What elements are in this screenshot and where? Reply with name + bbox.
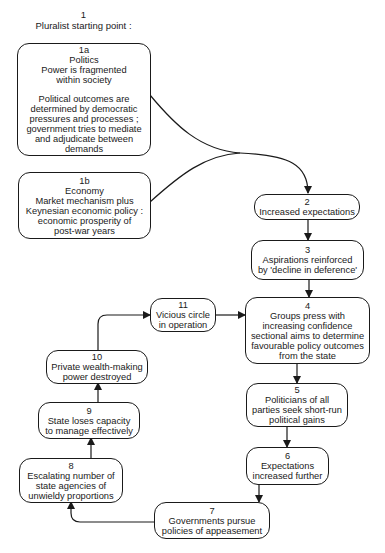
node-number: 11 — [178, 300, 188, 310]
node-1b-economy: 1b Economy Market mechanism plus Keynesi… — [18, 172, 151, 239]
node-text-line: Expectations — [261, 461, 314, 471]
node-7-governments-appeasement: 7 Governments pursue policies of appease… — [154, 502, 270, 539]
node-text-line: within society — [56, 75, 111, 85]
node-text-line: in operation — [159, 320, 208, 330]
node-text-line: Market mechanism plus — [35, 196, 133, 206]
node-text-line: post-war years — [54, 226, 115, 236]
diagram-heading: 1 Pluralist starting point : — [17, 9, 150, 31]
node-8-escalating-state-agencies: 8 Escalating number of state agencies of… — [19, 458, 123, 503]
node-text-line: Escalating number of — [27, 471, 114, 481]
node-text-line: Political outcomes are — [39, 94, 130, 104]
node-number: 6 — [285, 451, 290, 461]
node-text-line: power destroyed — [63, 372, 132, 382]
node-number: 5 — [294, 385, 299, 395]
node-2-increased-expectations: 2 Increased expectations — [254, 194, 360, 220]
node-5-politicians-seek-gains: 5 Politicians of all parties seek short-… — [246, 383, 348, 427]
node-1a-politics: 1a Politics Power is fragmented within s… — [17, 43, 151, 156]
edge-10-to-11 — [98, 315, 150, 350]
node-text-line: sectional aims to determine — [251, 331, 364, 341]
node-text-line: favourable policy outcomes — [251, 341, 364, 351]
node-11-vicious-circle: 11 Vicious circle in operation — [150, 298, 216, 332]
node-text-line: economic prosperity of — [38, 216, 132, 226]
node-text-line: increased further — [253, 471, 323, 481]
node-text-line: and adjudicate between — [35, 134, 133, 144]
node-text-line: pressures and processes ; — [29, 114, 138, 124]
node-text-line: increasing confidence — [263, 321, 353, 331]
node-text-line: by 'decline in deference' — [258, 265, 357, 275]
heading-number: 1 — [17, 9, 150, 20]
edge-1a-to-2 — [150, 95, 240, 153]
edge-7-to-8 — [71, 502, 154, 522]
node-text-line: Economy — [65, 186, 104, 196]
node-number: 9 — [86, 406, 91, 416]
node-3-aspirations-reinforced: 3 Aspirations reinforced by 'decline in … — [251, 240, 364, 280]
node-text-line: Keynesian economic policy : — [26, 206, 143, 216]
node-number: 2 — [304, 197, 309, 207]
node-text-line: Groups press with — [270, 311, 345, 321]
node-text-line: Aspirations reinforced — [263, 255, 353, 265]
edge-1b-to-2 — [150, 153, 240, 202]
node-text-line: Politicians of all — [265, 395, 329, 405]
node-text-line: from the state — [279, 351, 336, 361]
node-text-line: determined by democratic — [31, 104, 138, 114]
node-text-line: Politics — [69, 55, 98, 65]
node-4-groups-press: 4 Groups press with increasing confidenc… — [245, 297, 370, 364]
node-text-line: parties seek short-run — [252, 405, 342, 415]
node-text-line: State loses capacity — [48, 416, 131, 426]
node-text-line: Increased expectations — [259, 207, 355, 217]
node-number: 10 — [92, 352, 102, 362]
node-text-line: demands — [65, 144, 103, 154]
pluralist-overload-flow-diagram: 1 Pluralist starting point : 1a Politics… — [0, 0, 385, 553]
node-text-line: Governments pursue — [169, 516, 256, 526]
node-text-line: Power is fragmented — [41, 65, 126, 75]
node-text-line: state agencies of — [36, 481, 106, 491]
node-text-line: unwieldy proportions — [28, 491, 113, 501]
node-text-line: to manage effectively — [45, 426, 133, 436]
node-text-line: policies of appeasement — [162, 526, 262, 536]
node-number: 8 — [68, 461, 73, 471]
node-6-expectations-increased-further: 6 Expectations increased further — [246, 447, 329, 485]
node-text-line: Vicious circle — [156, 310, 210, 320]
node-number: 7 — [209, 506, 214, 516]
node-text-line: government tries to mediate — [26, 124, 141, 134]
node-number: 3 — [305, 245, 310, 255]
node-number: 1b — [79, 176, 89, 186]
node-text-line: Private wealth-making — [51, 362, 142, 372]
node-9-state-loses-capacity: 9 State loses capacity to manage effecti… — [38, 402, 140, 439]
node-number: 4 — [305, 301, 310, 311]
node-number: 1a — [79, 45, 89, 55]
edge-merge-to-2 — [240, 153, 308, 193]
heading-title: Pluralist starting point : — [17, 20, 150, 31]
node-text-line: political gains — [269, 415, 325, 425]
node-10-private-wealth-destroyed: 10 Private wealth-making power destroyed — [46, 350, 148, 384]
